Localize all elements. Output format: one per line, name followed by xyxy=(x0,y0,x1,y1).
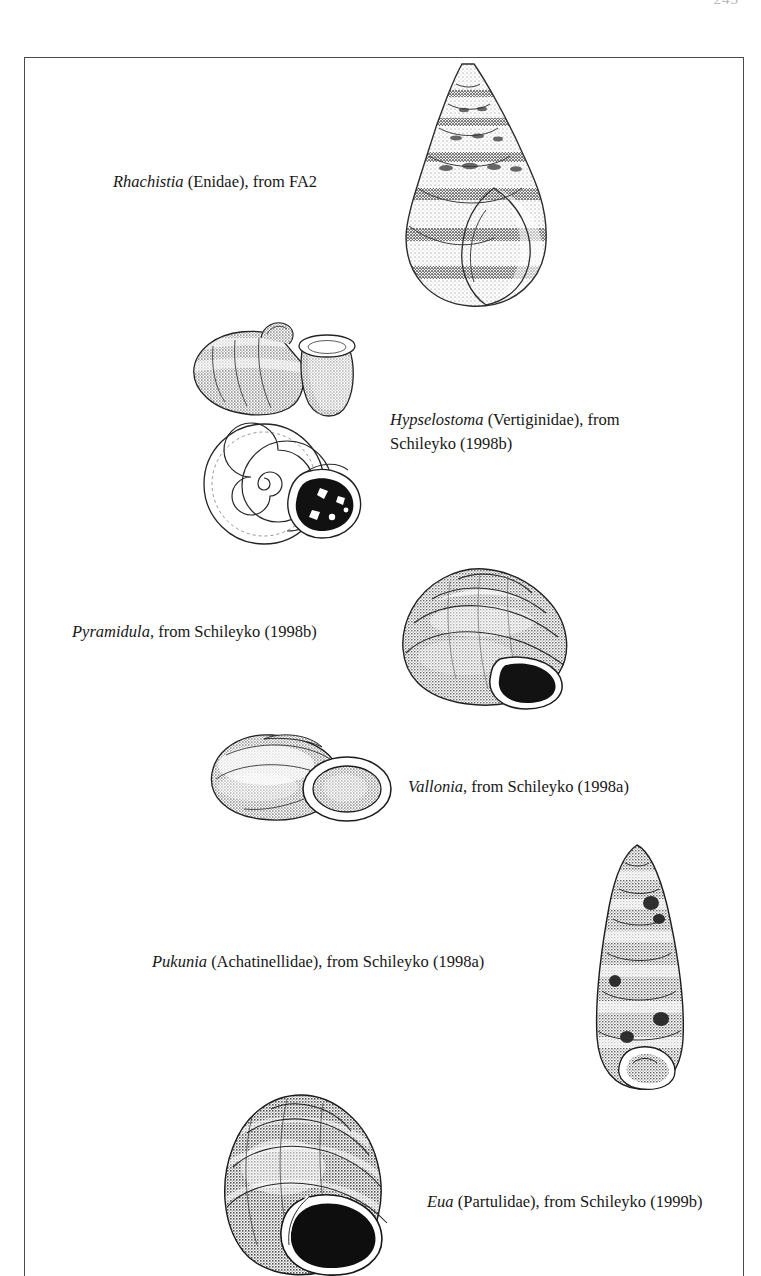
shell-illustration-pyramidula xyxy=(396,561,578,713)
shell-illustration-hypselostoma-lateral xyxy=(183,316,383,428)
shell-illustration-pukunia xyxy=(581,841,703,1093)
caption-rest-pyramidula: , from Schileyko (1998b) xyxy=(150,622,317,641)
genus-name-hypselostoma: Hypselostoma xyxy=(390,410,484,429)
caption-rest-rhachistia: (Enidae), from FA2 xyxy=(184,172,318,191)
caption-eua: Eua (Partulidae), from Schileyko (1999b) xyxy=(427,1190,702,1214)
genus-name-eua: Eua xyxy=(427,1192,454,1211)
caption-hypselostoma: Hypselostoma (Vertiginidae), from Schile… xyxy=(390,408,670,456)
shell-illustration-rhachistia xyxy=(398,60,578,310)
caption-rest-eua: (Partulidae), from Schileyko (1999b) xyxy=(454,1192,703,1211)
caption-line2-hypselostoma: Schileyko (1998b) xyxy=(390,434,512,453)
caption-vallonia: Vallonia, from Schileyko (1998a) xyxy=(408,775,629,799)
caption-pukunia: Pukunia (Achatinellidae), from Schileyko… xyxy=(152,950,484,974)
genus-name-rhachistia: Rhachistia xyxy=(113,172,184,191)
caption-rest-pukunia: (Achatinellidae), from Schileyko (1998a) xyxy=(207,952,484,971)
page-folio-number: 243 xyxy=(714,0,740,8)
genus-name-pukunia: Pukunia xyxy=(152,952,207,971)
shell-illustration-hypselostoma-apertural xyxy=(180,418,382,550)
caption-pyramidula: Pyramidula, from Schileyko (1998b) xyxy=(72,620,317,644)
shell-illustration-vallonia xyxy=(206,729,398,831)
genus-name-vallonia: Vallonia xyxy=(408,777,463,796)
document-page: 243 xyxy=(0,0,761,1276)
caption-rest-hypselostoma: (Vertiginidae), from xyxy=(484,410,620,429)
caption-rest-vallonia: , from Schileyko (1998a) xyxy=(463,777,629,796)
shell-illustration-eua xyxy=(209,1089,393,1276)
caption-rhachistia: Rhachistia (Enidae), from FA2 xyxy=(113,170,317,194)
genus-name-pyramidula: Pyramidula xyxy=(72,622,150,641)
